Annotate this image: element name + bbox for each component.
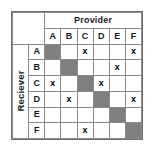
matrix-cell-b-f[interactable] <box>125 60 141 76</box>
matrix-cell-b-d[interactable] <box>93 60 109 76</box>
row-header-f: F <box>29 123 45 139</box>
matrix-row: Bx <box>13 60 142 76</box>
matrix-cell-f-b[interactable] <box>61 123 77 139</box>
column-header-f: F <box>125 28 141 44</box>
matrix-cell-b-c[interactable] <box>77 60 93 76</box>
matrix-cell-b-a[interactable] <box>45 60 61 76</box>
matrix-row: E <box>13 107 142 123</box>
cell-mark: x <box>66 94 71 104</box>
row-header-c: C <box>29 76 45 92</box>
cell-mark: x <box>50 78 55 88</box>
matrix-row: Dxx <box>13 91 142 107</box>
matrix-cell-c-e[interactable] <box>109 76 125 92</box>
matrix-cell-f-e[interactable] <box>109 123 125 139</box>
row-header-a: A <box>29 44 45 60</box>
matrix-cell-e-d[interactable] <box>93 107 109 123</box>
matrix-cell-d-d[interactable] <box>93 91 109 107</box>
matrix-cell-d-c[interactable] <box>77 91 93 107</box>
matrix-cell-c-c[interactable] <box>77 76 93 92</box>
matrix-table: Provider ABCDEF Reciever Axx BxCxxDxxEFx <box>12 12 142 139</box>
matrix-cell-d-f[interactable]: x <box>125 91 141 107</box>
matrix-cell-e-e[interactable] <box>109 107 125 123</box>
cell-mark: x <box>83 125 88 135</box>
matrix-row: Reciever Axx <box>13 44 142 60</box>
matrix-row: Fx <box>13 123 142 139</box>
matrix-cell-a-a[interactable] <box>45 44 61 60</box>
matrix-cell-e-f[interactable] <box>125 107 141 123</box>
matrix-cell-a-e[interactable] <box>109 44 125 60</box>
matrix-cell-c-f[interactable] <box>125 76 141 92</box>
matrix-body: Provider ABCDEF Reciever Axx BxCxxDxxEFx <box>13 13 142 139</box>
matrix-cell-f-c[interactable]: x <box>77 123 93 139</box>
row-axis-label-text: Reciever <box>16 71 26 112</box>
matrix-row: Cxx <box>13 76 142 92</box>
matrix-cell-d-a[interactable] <box>45 91 61 107</box>
column-header-e: E <box>109 28 125 44</box>
matrix-cell-f-f[interactable] <box>125 123 141 139</box>
column-axis-label: Provider <box>45 13 142 29</box>
matrix-cell-b-e[interactable]: x <box>109 60 125 76</box>
matrix-corner-blank <box>13 13 45 45</box>
column-header-a: A <box>45 28 61 44</box>
cell-mark: x <box>115 62 120 72</box>
matrix-header-banner-row: Provider <box>13 13 142 29</box>
column-header-c: C <box>77 28 93 44</box>
cell-mark: x <box>83 46 88 56</box>
row-header-d: D <box>29 91 45 107</box>
matrix-cell-b-b[interactable] <box>61 60 77 76</box>
matrix-cell-a-f[interactable]: x <box>125 44 141 60</box>
matrix-cell-d-e[interactable] <box>109 91 125 107</box>
matrix-cell-a-b[interactable] <box>61 44 77 60</box>
matrix-cell-d-b[interactable]: x <box>61 91 77 107</box>
matrix-cell-c-a[interactable]: x <box>45 76 61 92</box>
cell-mark: x <box>131 94 136 104</box>
matrix-cell-e-a[interactable] <box>45 107 61 123</box>
column-header-d: D <box>93 28 109 44</box>
adjacency-matrix: Provider ABCDEF Reciever Axx BxCxxDxxEFx <box>11 11 143 140</box>
row-header-b: B <box>29 60 45 76</box>
matrix-cell-c-b[interactable] <box>61 76 77 92</box>
matrix-cell-e-c[interactable] <box>77 107 93 123</box>
matrix-cell-a-d[interactable] <box>93 44 109 60</box>
matrix-cell-f-a[interactable] <box>45 123 61 139</box>
matrix-cell-a-c[interactable]: x <box>77 44 93 60</box>
matrix-cell-f-d[interactable] <box>93 123 109 139</box>
row-axis-label: Reciever <box>13 44 29 139</box>
matrix-cell-c-d[interactable]: x <box>93 76 109 92</box>
matrix-cell-e-b[interactable] <box>61 107 77 123</box>
column-header-b: B <box>61 28 77 44</box>
row-header-e: E <box>29 107 45 123</box>
cell-mark: x <box>131 46 136 56</box>
cell-mark: x <box>99 78 104 88</box>
